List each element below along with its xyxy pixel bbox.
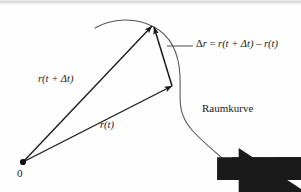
delta-r-vector-symbol: r (203, 39, 207, 50)
vector-r-t (23, 86, 172, 162)
diagram-canvas (0, 0, 301, 192)
r-argument: (t + Δt) (42, 73, 73, 84)
r-letter: r (38, 73, 42, 84)
vector-delta-r (154, 27, 172, 86)
origin-label: 0 (17, 168, 23, 179)
r-vector-symbol: r (38, 74, 42, 85)
r-letter-first: r (218, 38, 222, 49)
delta-symbol: Δ (196, 38, 203, 49)
scan-top-border-soft (0, 3, 301, 4)
vector-r-t-plus-dt (23, 26, 152, 162)
scan-top-border (0, 1, 301, 3)
argument-first: (t + Δt) (222, 38, 253, 49)
r-letter: r (100, 119, 104, 130)
r-vector-symbol-second: r (264, 39, 268, 50)
raumkurve-label: Raumkurve (202, 103, 253, 114)
equals-sign: = (207, 38, 218, 49)
argument-second: (t) (268, 38, 278, 49)
delta-r-letter: r (203, 38, 207, 49)
r-letter-second: r (264, 38, 268, 49)
vector-diagram-figure: Δr = r(t + Δt) – r(t) r(t + Δt) r(t) Rau… (0, 0, 301, 192)
delta-r-equation-label: Δr = r(t + Δt) – r(t) (196, 39, 278, 50)
minus-sign: – (253, 38, 264, 49)
r-t-plus-delta-t-label: r(t + Δt) (38, 74, 73, 85)
r-vector-symbol-first: r (218, 39, 222, 50)
origin-point-marker (20, 159, 26, 165)
r-argument: (t) (104, 119, 114, 130)
r-t-label: r(t) (100, 120, 114, 131)
r-vector-symbol: r (100, 120, 104, 131)
